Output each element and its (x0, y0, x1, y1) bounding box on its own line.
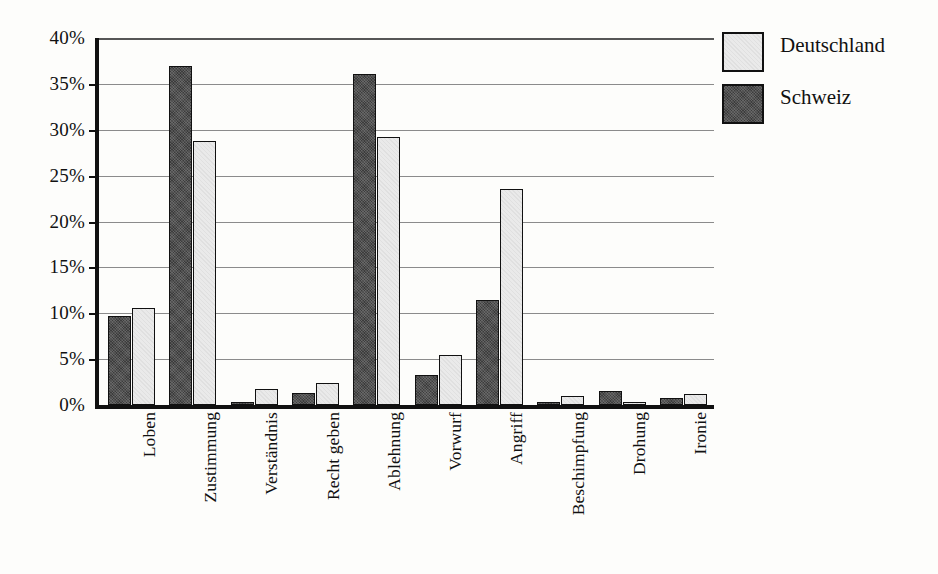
x-tick-label: Ironie (690, 412, 711, 454)
bar-group (415, 38, 462, 405)
y-tick-label: 0% (59, 394, 85, 416)
x-tick-label: Vorwurf (445, 412, 466, 471)
bar-schweiz-angriff (476, 300, 499, 405)
bar-deutschland-ablehnung (377, 137, 400, 405)
bar-chart-figure: 40%35%30%25%20%15%10%5%0% LobenZustimmun… (0, 0, 938, 574)
legend-swatch-deutschland (722, 32, 764, 72)
legend-item: Deutschland (722, 30, 932, 82)
x-tick-label: Zustimmung (200, 412, 221, 502)
bar-schweiz-loben (108, 316, 131, 405)
legend-swatch-schweiz (722, 84, 764, 124)
x-tick-label: Verständnis (261, 412, 282, 495)
bar-schweiz-vorwurf (415, 375, 438, 405)
bar-schweiz-recht-geben (292, 393, 315, 405)
bar-deutschland-vorwurf (439, 355, 462, 405)
x-axis-category-labels: LobenZustimmungVerständnisRecht gebenAbl… (95, 412, 714, 572)
bar-schweiz-zustimmung (169, 66, 192, 405)
legend-label: Schweiz (780, 85, 851, 110)
chart-legend: DeutschlandSchweiz (722, 30, 932, 134)
x-tick-label: Beschimpfung (568, 412, 589, 515)
bar-schweiz-drohung (599, 391, 622, 405)
y-tick-label: 20% (50, 211, 85, 233)
bar-deutschland-beschimpfung (561, 396, 584, 405)
legend-label: Deutschland (780, 33, 885, 58)
bar-group (537, 38, 584, 405)
bar-deutschland-angriff (500, 189, 523, 405)
y-tick-label: 5% (59, 348, 85, 370)
bar-group (599, 38, 646, 405)
bar-deutschland-verständnis (255, 389, 278, 406)
bar-group (660, 38, 707, 405)
y-tick-label: 25% (50, 165, 85, 187)
bar-group (231, 38, 278, 405)
bar-group (353, 38, 400, 405)
y-tick-label: 30% (50, 119, 85, 141)
bar-group (169, 38, 216, 405)
bar-group (292, 38, 339, 405)
y-tick-label: 15% (50, 256, 85, 278)
x-axis-line (95, 405, 714, 409)
bar-schweiz-ablehnung (353, 74, 376, 405)
bar-deutschland-loben (132, 308, 155, 405)
y-axis-line (95, 38, 99, 409)
y-axis-tick-labels: 40%35%30%25%20%15%10%5%0% (0, 0, 95, 420)
x-tick-label: Drohung (629, 412, 650, 475)
bar-deutschland-ironie (684, 394, 707, 405)
bar-group (108, 38, 155, 405)
legend-item: Schweiz (722, 82, 932, 134)
y-tick-label: 10% (50, 302, 85, 324)
x-tick-label: Ablehnung (384, 412, 405, 491)
x-tick-label: Loben (139, 412, 160, 457)
bar-group (476, 38, 523, 405)
bar-deutschland-recht-geben (316, 383, 339, 405)
x-tick-label: Angriff (506, 412, 527, 465)
bar-deutschland-zustimmung (193, 141, 216, 405)
bar-schweiz-ironie (660, 398, 683, 405)
y-tick-label: 40% (50, 27, 85, 49)
plot-area (95, 38, 714, 409)
y-tick-label: 35% (50, 73, 85, 95)
x-tick-label: Recht geben (323, 412, 344, 500)
